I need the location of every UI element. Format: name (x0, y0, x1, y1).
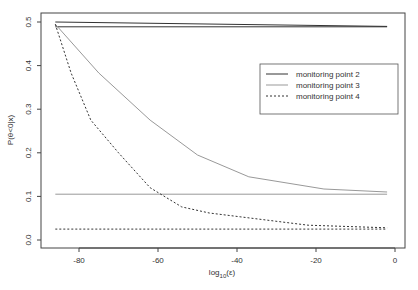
series-line-4 (55, 24, 387, 228)
plot-lines (55, 22, 387, 229)
y-tick-label: 0.1 (24, 190, 33, 202)
x-tick-label: -80 (73, 256, 85, 265)
x-tick-label: 0 (393, 256, 398, 265)
line-chart: -80-60-40-200 0.00.10.20.30.40.5 P(θ<0|x… (0, 0, 418, 290)
y-axis: 0.00.10.20.30.40.5 (24, 16, 41, 246)
series-line-2 (55, 22, 387, 26)
y-tick-label: 0.4 (24, 59, 33, 71)
y-axis-label: P(θ<0|x) (6, 115, 15, 146)
y-tick-label: 0.3 (24, 103, 33, 115)
x-axis-label: log10(ε) (209, 268, 236, 279)
x-tick-label: -20 (310, 256, 322, 265)
y-tick-label: 0.2 (24, 147, 33, 159)
legend-label-3: monitoring point 3 (296, 81, 360, 90)
x-tick-label: -60 (152, 256, 164, 265)
legend-label-2: monitoring point 2 (296, 70, 360, 79)
y-tick-label: 0.5 (24, 16, 33, 28)
legend-label-4: monitoring point 4 (296, 92, 360, 101)
x-axis: -80-60-40-200 (73, 248, 398, 265)
plot-frame (41, 13, 405, 248)
legend: monitoring point 2 monitoring point 3 mo… (260, 64, 398, 114)
y-tick-label: 0.0 (24, 234, 33, 246)
x-tick-label: -40 (231, 256, 243, 265)
